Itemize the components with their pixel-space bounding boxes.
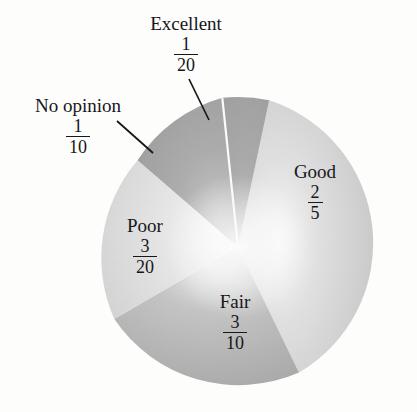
fraction-numerator: 3 xyxy=(223,313,247,331)
fraction-denominator: 10 xyxy=(66,138,90,156)
slice-label-no-opinion: No opinion 1 10 xyxy=(8,96,148,157)
slice-label-poor-fraction: 3 20 xyxy=(133,237,157,277)
slice-label-excellent-fraction: 1 20 xyxy=(174,35,198,75)
slice-label-no-opinion-name: No opinion xyxy=(8,96,148,116)
fraction-denominator: 5 xyxy=(308,204,323,222)
fraction-denominator: 20 xyxy=(133,258,157,276)
pie-chart-figure: Excellent 1 20 No opinion 1 10 Good 2 5 … xyxy=(0,0,417,412)
fraction-denominator: 20 xyxy=(174,56,198,74)
slice-label-good-fraction: 2 5 xyxy=(308,183,323,223)
slice-label-fair: Fair 3 10 xyxy=(198,292,272,353)
fraction-numerator: 3 xyxy=(133,237,157,255)
fraction-numerator: 1 xyxy=(66,117,90,135)
slice-label-excellent: Excellent 1 20 xyxy=(124,14,248,75)
slice-label-no-opinion-fraction: 1 10 xyxy=(66,117,90,157)
slice-label-fair-name: Fair xyxy=(198,292,272,312)
slice-label-fair-fraction: 3 10 xyxy=(223,313,247,353)
slice-label-good: Good 2 5 xyxy=(276,162,354,223)
fraction-denominator: 10 xyxy=(223,334,247,352)
fraction-numerator: 1 xyxy=(174,35,198,53)
fraction-numerator: 2 xyxy=(308,183,323,201)
slice-label-excellent-name: Excellent xyxy=(124,14,248,34)
slice-label-poor: Poor 3 20 xyxy=(108,216,182,277)
slice-label-good-name: Good xyxy=(276,162,354,182)
slice-label-poor-name: Poor xyxy=(108,216,182,236)
